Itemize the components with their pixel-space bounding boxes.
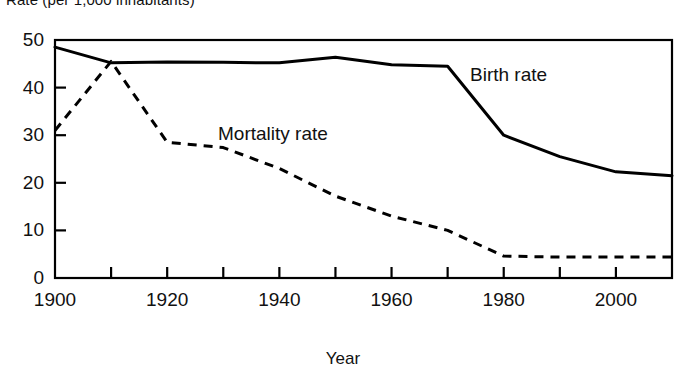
x-axis-tick-label: 1900 (34, 289, 76, 311)
x-axis-tick-label: 2000 (595, 289, 637, 311)
series-label-birth-rate: Birth rate (470, 64, 547, 86)
y-axis-tick-label: 40 (0, 77, 44, 99)
plot-area (0, 0, 686, 387)
chart-figure: Rate (per 1,000 inhabitants) 50403020100… (0, 0, 686, 387)
x-axis-tick-label: 1940 (258, 289, 300, 311)
y-axis-ticks (55, 88, 66, 231)
series-line-mortality-rate (55, 61, 672, 257)
y-axis-tick-label: 30 (0, 124, 44, 146)
y-axis-tick-label: 10 (0, 219, 44, 241)
y-axis-tick-label: 0 (0, 267, 44, 289)
y-axis-tick-label: 20 (0, 172, 44, 194)
x-axis-tick-label: 1920 (146, 289, 188, 311)
x-axis-tick-label: 1960 (370, 289, 412, 311)
x-axis-ticks (111, 267, 616, 278)
x-axis-title: Year (0, 349, 686, 369)
series-label-mortality-rate: Mortality rate (218, 123, 328, 145)
x-axis-tick-label: 1980 (483, 289, 525, 311)
y-axis-tick-label: 50 (0, 29, 44, 51)
plot-frame (55, 40, 672, 278)
